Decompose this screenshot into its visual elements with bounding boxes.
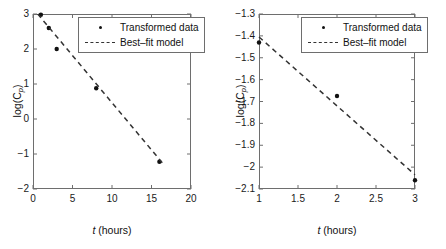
x-tick-label: 2 xyxy=(334,194,340,204)
y-axis-subscript-left: p xyxy=(16,88,25,92)
x-axis-title-left: t (hours) xyxy=(92,224,131,236)
chart-panel-right: Transformed data Best–fit model −1.3−1.4… xyxy=(223,0,446,249)
x-tick-label: 3 xyxy=(412,194,418,204)
x-axis-unit-left: (hours) xyxy=(95,224,131,236)
dashed-line-swatch-icon xyxy=(306,42,340,43)
chart-panel-left: Transformed data Best–fit model 3210−1−2… xyxy=(0,0,223,249)
x-tick-label: 1 xyxy=(256,194,262,204)
y-tick-label: 2 xyxy=(23,44,29,54)
y-tick-label: −1.4 xyxy=(235,31,255,41)
x-axis-unit-right: (hours) xyxy=(320,224,356,236)
y-axis-suffix-right: ) xyxy=(234,85,246,89)
y-tick-label: 3 xyxy=(23,9,29,19)
legend-entry-data: Transformed data xyxy=(306,21,422,34)
x-tick-label: 15 xyxy=(146,194,157,204)
legend-label-model: Best–fit model xyxy=(117,37,183,48)
y-tick-label: −1.8 xyxy=(235,118,255,128)
legend-entry-data: Transformed data xyxy=(83,21,199,34)
y-axis-title-left: log(Cp) xyxy=(11,85,25,118)
legend-entry-model: Best–fit model xyxy=(306,36,422,49)
legend-right: Transformed data Best–fit model xyxy=(301,17,428,53)
x-axis-title-right: t (hours) xyxy=(317,224,356,236)
y-axis-suffix-left: ) xyxy=(11,85,23,89)
y-tick-label: −1 xyxy=(18,149,29,159)
x-tick-label: 0 xyxy=(30,194,36,204)
y-tick-label: −2 xyxy=(18,184,29,194)
x-tick-label: 2.5 xyxy=(369,194,383,204)
y-axis-title-right: log(Cp) xyxy=(234,85,248,118)
filled-circle-marker-icon xyxy=(83,26,117,29)
x-tick-label: 20 xyxy=(185,194,196,204)
y-tick-label: −1.6 xyxy=(235,75,255,85)
y-tick-label: −1.9 xyxy=(235,140,255,150)
x-tick-label: 1.5 xyxy=(291,194,305,204)
legend-label-data: Transformed data xyxy=(340,22,422,33)
y-tick-label: −1.3 xyxy=(235,9,255,19)
y-axis-prefix-left: log(C xyxy=(11,92,23,117)
filled-circle-marker-icon xyxy=(306,26,340,29)
legend-left: Transformed data Best–fit model xyxy=(78,17,205,53)
legend-label-model: Best–fit model xyxy=(340,37,406,48)
dashed-line-swatch-icon xyxy=(83,42,117,43)
legend-entry-model: Best–fit model xyxy=(83,36,199,49)
x-tick-label: 5 xyxy=(70,194,76,204)
y-tick-label: −1.5 xyxy=(235,53,255,63)
y-axis-prefix-right: log(C xyxy=(234,92,246,117)
y-tick-label: −2.1 xyxy=(235,184,255,194)
y-axis-subscript-right: p xyxy=(239,88,248,92)
figure-container: Transformed data Best–fit model 3210−1−2… xyxy=(0,0,446,249)
y-tick-label: −2 xyxy=(244,162,255,172)
x-tick-label: 10 xyxy=(106,194,117,204)
legend-label-data: Transformed data xyxy=(117,22,199,33)
